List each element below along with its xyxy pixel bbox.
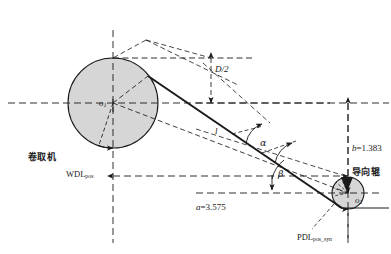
construction-line-upper-right [146, 40, 211, 58]
alpha-ray-upper [232, 126, 263, 134]
construction-line-tangent-parallel [146, 40, 238, 85]
diagram-vector-layer [0, 0, 391, 254]
alpha-reference-line [196, 129, 345, 176]
strip-tangent-line [148, 76, 342, 208]
diagram-canvas: o1 o2 卷取机 导向辊 D/2 l α β a=3.575 b=1.383 … [0, 0, 391, 254]
d-half-leader-line [203, 63, 270, 123]
construction-line-upper-left [113, 40, 146, 58]
pdl-pos-syn-leader [312, 204, 334, 229]
